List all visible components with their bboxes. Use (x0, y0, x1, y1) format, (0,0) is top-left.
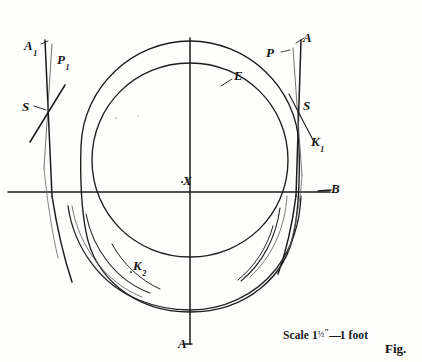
right-tangent-group (278, 38, 313, 274)
stray-speck-upper (115, 117, 116, 118)
lower-left-overlay-arc (68, 206, 190, 310)
label-a-bottom: A (178, 337, 187, 350)
label-e-curve: E (234, 69, 243, 82)
label-a-right: A (303, 31, 312, 44)
overlay-arc-group (68, 196, 301, 310)
label-p1: P1 (57, 53, 69, 70)
p-right-leader (281, 50, 290, 52)
label-center-x: X (183, 174, 192, 187)
label-a1: A1 (24, 39, 37, 56)
k2-leader-dot (130, 271, 132, 273)
label-s-left: S (22, 100, 29, 113)
figure-caption: Fig. (385, 341, 406, 357)
left-tangent-group (30, 40, 72, 282)
scale-note: Scale 1½″—1 foot (283, 327, 368, 341)
stray-speck-center (137, 115, 138, 116)
left-tangent-line-p1 (44, 44, 52, 168)
b-axis-leader (318, 190, 331, 191)
label-k1: K1 (311, 135, 324, 152)
figure-canvas: A1 P1 S P A E S K1 X B K2 A Scale 1½″—1 … (0, 0, 422, 362)
e-leader-line (221, 79, 232, 86)
label-p-right: P (266, 46, 274, 59)
center-marker-group (115, 115, 183, 273)
label-k2: K2 (133, 259, 146, 276)
right-tangent-thin-extension (288, 176, 302, 252)
label-s-right: S (303, 99, 310, 112)
left-s-leader (34, 106, 46, 110)
label-b-axis: B (331, 182, 340, 195)
right-tangent-line-a (296, 40, 301, 196)
e-leader-group (221, 79, 232, 86)
